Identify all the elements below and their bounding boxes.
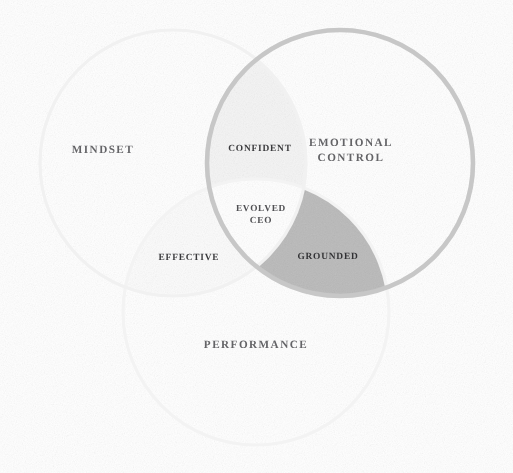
intersection-label-grounded: GROUNDED <box>272 251 384 263</box>
venn-diagram: MINDSET EMOTIONAL CONTROL PERFORMANCE CO… <box>0 0 513 473</box>
intersection-label-effective: EFFECTIVE <box>132 252 246 264</box>
venn-circles-svg <box>0 0 513 473</box>
set-label-performance: PERFORMANCE <box>186 338 326 353</box>
set-label-mindset: MINDSET <box>33 143 173 158</box>
intersection-label-confident: CONFIDENT <box>194 143 326 155</box>
intersection-label-evolved-ceo: EVOLVED CEO <box>211 203 311 228</box>
